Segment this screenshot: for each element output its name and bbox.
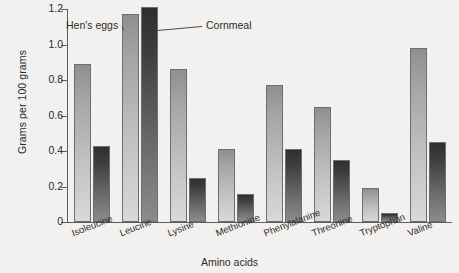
bar-group [116,9,164,222]
y-axis-title: Grams per 100 grams [16,22,28,182]
bar-chart: Grams per 100 grams 1.21.00.80.60.40.20 … [0,0,459,273]
bar-cornmeal-isoleucine [93,146,111,222]
y-tick-label: 1.0 [48,39,63,50]
x-axis-title: Amino acids [0,256,459,268]
y-tick-label: 0.2 [48,181,63,192]
y-tick-label: 0 [57,216,63,227]
bar-group [260,9,308,222]
plot-area [68,9,452,222]
bar-hen-s-eggs-valine [410,48,428,222]
bar-group [308,9,356,222]
bar-hen-s-eggs-tryptophan [362,188,380,222]
annotation-cornmeal: Cornmeal [206,19,252,31]
bar-group [212,9,260,222]
y-tick-label: 0.6 [48,110,63,121]
bar-group [68,9,116,222]
bar-hen-s-eggs-threonine [314,107,332,222]
y-tick-label: 1.2 [48,3,63,14]
annotation-hens-eggs: Hen's eggs [66,19,118,31]
bar-group [164,9,212,222]
y-tick-label: 0.8 [48,74,63,85]
bar-cornmeal-valine [429,142,447,222]
bar-hen-s-eggs-isoleucine [74,64,92,222]
bar-hen-s-eggs-phenylalanine [266,85,284,222]
bar-cornmeal-lysine [189,178,207,222]
bar-hen-s-eggs-leucine [122,14,140,222]
bar-cornmeal-phenylalanine [285,149,303,222]
y-tick-label: 0.4 [48,145,63,156]
bar-hen-s-eggs-methionine [218,149,236,222]
bar-group [356,9,404,222]
bar-group [404,9,452,222]
bar-cornmeal-leucine [141,7,159,222]
bar-hen-s-eggs-lysine [170,69,188,222]
